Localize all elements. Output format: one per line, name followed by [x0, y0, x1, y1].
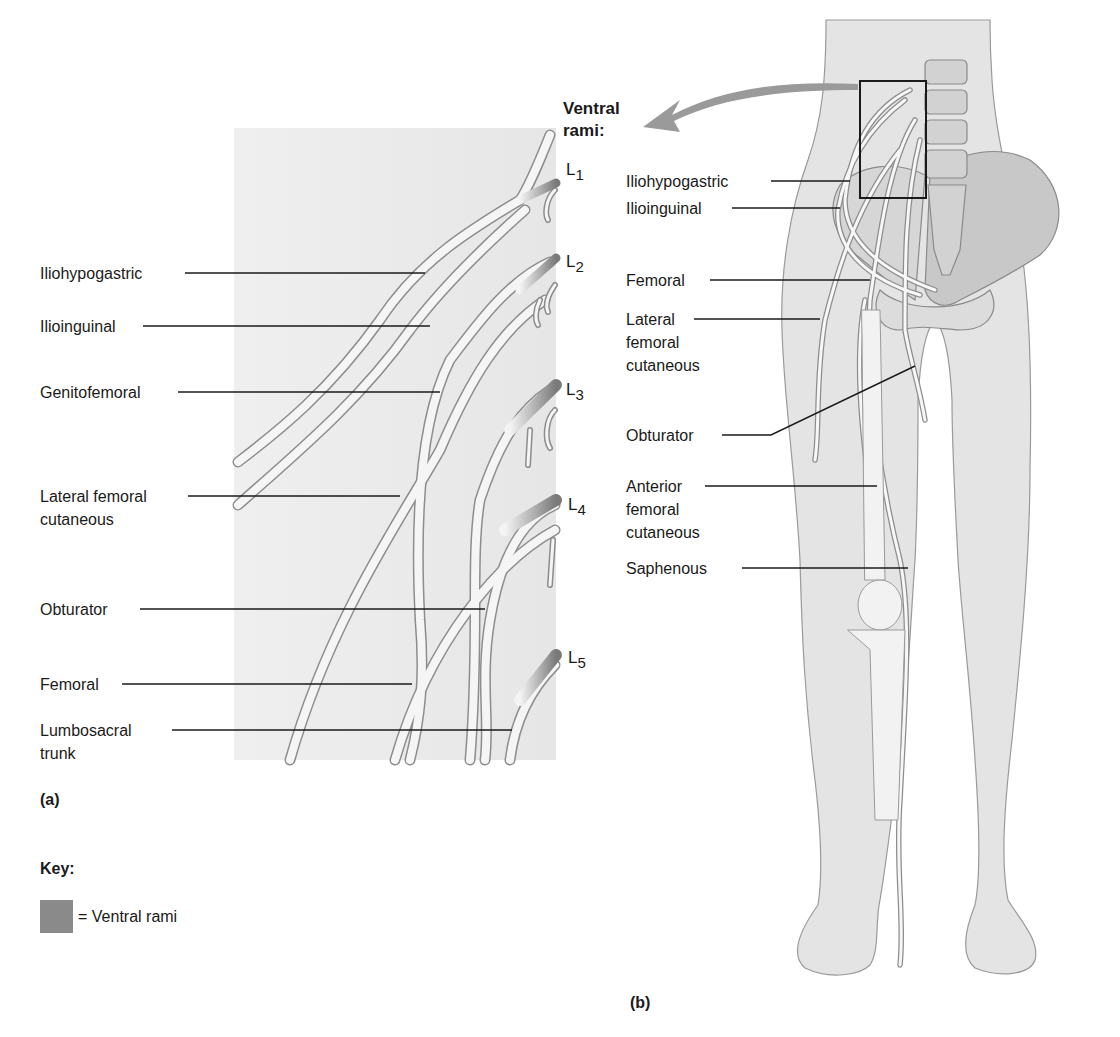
level-l5: L5 — [568, 648, 586, 671]
panel-b-caption: (b) — [630, 991, 650, 1014]
heading-line-1: Ventral — [563, 98, 620, 120]
label-line-1: Lateral — [626, 308, 700, 331]
label-line-1: Lumbosacral — [40, 719, 132, 742]
label-genitofemoral-a: Genitofemoral — [40, 381, 141, 404]
label-ilioinguinal-a: Ilioinguinal — [40, 315, 116, 338]
label-obturator-b: Obturator — [626, 424, 694, 447]
label-line-3: cutaneous — [626, 521, 700, 544]
label-line-1: Lateral femoral — [40, 485, 147, 508]
label-ilioinguinal-b: Ilioinguinal — [626, 197, 702, 220]
legend-title: Key: — [40, 857, 75, 880]
level-l3: L3 — [566, 380, 584, 403]
label-line-2: trunk — [40, 742, 132, 765]
label-obturator-a: Obturator — [40, 598, 108, 621]
level-l4: L4 — [568, 495, 586, 518]
level-l1: L1 — [566, 160, 584, 183]
heading-line-2: rami: — [563, 120, 620, 142]
label-anterior-femoral-cutaneous-b: Anterior femoral cutaneous — [626, 475, 700, 544]
label-line-3: cutaneous — [626, 354, 700, 377]
label-line-1: Anterior — [626, 475, 700, 498]
label-line-2: cutaneous — [40, 508, 147, 531]
label-femoral-b: Femoral — [626, 269, 685, 292]
label-lateral-femoral-cutaneous-b: Lateral femoral cutaneous — [626, 308, 700, 377]
label-iliohypogastric-b: Iliohypogastric — [626, 170, 728, 193]
lumbar-plexus-illustration — [0, 0, 1120, 1037]
label-saphenous-b: Saphenous — [626, 557, 707, 580]
legend-label-ventral-rami: = Ventral rami — [78, 905, 177, 928]
label-iliohypogastric-a: Iliohypogastric — [40, 262, 142, 285]
label-line-2: femoral — [626, 498, 700, 521]
ventral-rami-heading: Ventral rami: — [563, 98, 620, 142]
label-femoral-a: Femoral — [40, 673, 99, 696]
legend-swatch-ventral-rami — [40, 900, 73, 933]
panel-a-caption: (a) — [40, 788, 60, 811]
level-l2: L2 — [566, 252, 584, 275]
label-line-2: femoral — [626, 331, 700, 354]
label-lumbosacral-trunk-a: Lumbosacral trunk — [40, 719, 132, 765]
label-lateral-femoral-cutaneous-a: Lateral femoral cutaneous — [40, 485, 147, 531]
